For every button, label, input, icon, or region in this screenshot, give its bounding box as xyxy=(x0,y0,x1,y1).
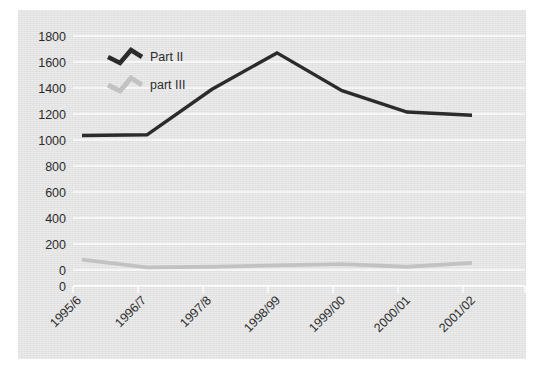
y-tick-label: 200 xyxy=(45,238,66,252)
y-tick-label: 0 xyxy=(59,280,66,294)
gridlines xyxy=(73,36,525,270)
y-tick-label: 800 xyxy=(45,160,66,174)
y-axis-labels: 1800 1600 1400 1200 1000 800 600 400 200… xyxy=(38,30,66,294)
x-axis xyxy=(73,286,525,293)
x-tick-label: 1997/8 xyxy=(177,293,214,330)
x-tick-label: 1995/6 xyxy=(47,293,84,330)
y-tick-label: 1000 xyxy=(38,134,66,148)
y-tick-label: 1400 xyxy=(38,82,66,96)
y-tick-label: 0 xyxy=(59,264,66,278)
x-axis-labels: 1995/6 1996/7 1997/8 1998/99 1999/00 200… xyxy=(47,293,478,335)
y-tick-label: 1600 xyxy=(38,56,66,70)
chart-figure: 1800 1600 1400 1200 1000 800 600 400 200… xyxy=(0,0,545,373)
y-tick-label: 1200 xyxy=(38,108,66,122)
series-line-part-ii xyxy=(82,53,472,136)
x-tick-label: 2000/01 xyxy=(371,293,413,335)
x-tick-label: 1999/00 xyxy=(306,293,348,335)
y-tick-label: 600 xyxy=(45,186,66,200)
series-line-part-iii xyxy=(82,260,472,268)
legend-label-part-iii: part III xyxy=(150,78,185,92)
chart-legend: Part II part III xyxy=(108,50,185,92)
x-tick-label: 2001/02 xyxy=(436,293,478,335)
legend-swatch-part-iii xyxy=(108,78,142,91)
line-chart: 1800 1600 1400 1200 1000 800 600 400 200… xyxy=(0,0,545,373)
legend-swatch-part-ii xyxy=(108,50,142,63)
y-tick-label: 1800 xyxy=(38,30,66,44)
y-tick-label: 400 xyxy=(45,212,66,226)
x-tick-label: 1998/99 xyxy=(241,293,283,335)
legend-label-part-ii: Part II xyxy=(150,50,183,64)
x-tick-label: 1996/7 xyxy=(112,293,149,330)
